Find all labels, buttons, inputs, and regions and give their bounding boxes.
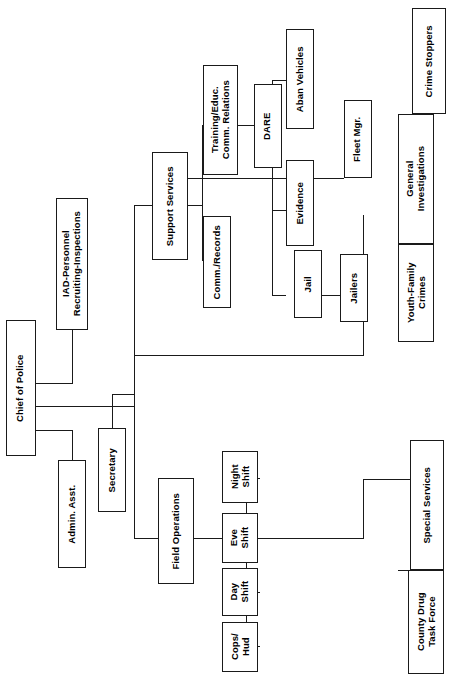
node-field-operations[interactable]: Field Operations bbox=[158, 478, 194, 584]
node-label: Training/Educ. Comm. Relations bbox=[210, 80, 231, 159]
node-comm-records[interactable]: Comm./Records bbox=[203, 216, 231, 308]
node-label: Support Services bbox=[165, 166, 176, 246]
node-secretary[interactable]: Secretary bbox=[98, 428, 126, 512]
connector-support-spine-h bbox=[188, 205, 202, 206]
node-label: Cops/ Hud bbox=[229, 634, 250, 661]
node-label: County Drug Task Force bbox=[415, 593, 436, 652]
node-fleet-mgr[interactable]: Fleet Mgr. bbox=[344, 100, 372, 178]
connector-ops-evidence-h bbox=[272, 210, 286, 211]
node-admin-asst[interactable]: Admin. Asst. bbox=[58, 460, 86, 568]
node-label: Field Operations bbox=[171, 493, 182, 570]
connector-jail-jailers-h bbox=[322, 295, 340, 296]
node-label: Aban Vehicles bbox=[295, 46, 306, 112]
node-iad-personnel[interactable]: IAD-Personnel Recruiting-Inspections bbox=[56, 198, 88, 330]
node-evidence[interactable]: Evidence bbox=[286, 160, 314, 246]
node-night-shift[interactable]: Night Shift bbox=[222, 451, 258, 503]
connector-support-ops-h bbox=[188, 178, 272, 179]
node-training-educ-comm-relations[interactable]: Training/Educ. Comm. Relations bbox=[203, 65, 238, 175]
connector-chief-admin-h bbox=[36, 430, 72, 431]
connector-ops-aban-h bbox=[272, 80, 286, 81]
node-label: Youth-Family Crimes bbox=[405, 263, 426, 324]
connector-chief-trunk-h bbox=[36, 406, 134, 407]
node-county-drug-task-force[interactable]: County Drug Task Force bbox=[408, 570, 444, 674]
node-label: Comm./Records bbox=[212, 225, 223, 299]
connector-trunk-fieldops-h bbox=[134, 538, 158, 539]
connector-chief-admin-v bbox=[72, 430, 73, 460]
node-special-services[interactable]: Special Services bbox=[410, 440, 444, 570]
connector-main-trunk-v2 bbox=[134, 406, 135, 538]
node-chief-of-police[interactable]: Chief of Police bbox=[6, 320, 36, 456]
connector-training-dare-h bbox=[238, 125, 254, 126]
node-label: Eve Shift bbox=[229, 527, 250, 549]
node-label: Night Shift bbox=[229, 465, 250, 490]
node-label: Evidence bbox=[295, 182, 306, 225]
connector-trunk-support-h bbox=[134, 205, 152, 206]
node-crime-stoppers[interactable]: Crime Stoppers bbox=[412, 8, 446, 114]
node-eve-shift[interactable]: Eve Shift bbox=[222, 513, 258, 563]
node-label: Admin. Asst. bbox=[67, 485, 78, 544]
node-aban-vehicles[interactable]: Aban Vehicles bbox=[286, 29, 314, 129]
connector-special-stub-h bbox=[363, 479, 410, 480]
connector-chief-iad-v bbox=[72, 330, 73, 384]
node-label: Crime Stoppers bbox=[424, 25, 435, 97]
node-label: Special Services bbox=[422, 467, 433, 544]
connector-special-v bbox=[363, 479, 364, 539]
node-label: Jail bbox=[303, 276, 314, 292]
node-dare[interactable]: DARE bbox=[254, 84, 282, 168]
connector-main-trunk-v bbox=[134, 205, 135, 406]
node-label: Chief of Police bbox=[16, 354, 27, 421]
node-label: IAD-Personnel Recruiting-Inspections bbox=[61, 211, 82, 316]
node-label: DARE bbox=[263, 112, 274, 139]
org-chart: Chief of Police IAD-Personnel Recruiting… bbox=[0, 0, 452, 682]
connector-ops-jail-h bbox=[272, 295, 286, 296]
connector-trunk-investigations-h bbox=[134, 355, 363, 356]
node-jailers[interactable]: Jailers bbox=[340, 254, 368, 322]
node-label: Day Shift bbox=[229, 581, 250, 603]
node-label: Secretary bbox=[107, 448, 118, 492]
node-jail[interactable]: Jail bbox=[294, 250, 322, 318]
node-support-services[interactable]: Support Services bbox=[152, 152, 188, 260]
connector-secretary-v bbox=[112, 394, 113, 428]
node-youth-family-crimes[interactable]: Youth-Family Crimes bbox=[398, 244, 434, 342]
connector-secretary-h bbox=[112, 394, 134, 395]
node-label: Fleet Mgr. bbox=[353, 116, 364, 161]
node-label: Jailers bbox=[349, 273, 360, 304]
node-label: General Investigations bbox=[405, 146, 426, 211]
node-cops-hud[interactable]: Cops/ Hud bbox=[222, 622, 258, 672]
connector-chief-iad-h bbox=[36, 383, 72, 384]
node-day-shift[interactable]: Day Shift bbox=[222, 568, 258, 616]
node-general-investigations[interactable]: General Investigations bbox=[398, 114, 434, 244]
